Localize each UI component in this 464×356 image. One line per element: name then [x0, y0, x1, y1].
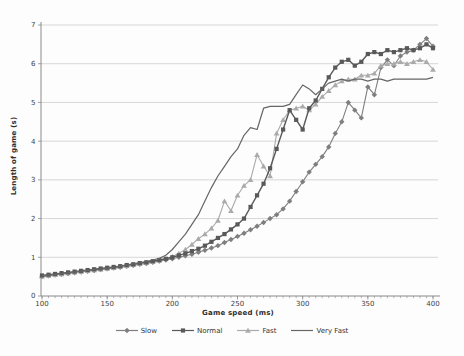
x-tick-label: 300 [296, 300, 309, 308]
series-normal [40, 42, 435, 277]
triangle-marker-glyph [237, 326, 259, 335]
square-marker-glyph [172, 326, 194, 335]
x-tick-label: 100 [35, 300, 48, 308]
x-tick-labels: 100150200250300350400 [35, 300, 439, 308]
axes [41, 22, 440, 296]
x-tick-label: 200 [166, 300, 179, 308]
legend-label: Very Fast [316, 327, 348, 335]
legend-item-normal: Normal [172, 326, 222, 335]
line-glyph [291, 326, 313, 335]
x-tick-label: 250 [231, 300, 244, 308]
diamond-marker-glyph [116, 326, 138, 335]
y-tick-label: 6 [31, 60, 36, 68]
y-tick-label: 1 [31, 254, 35, 262]
legend-item-slow: Slow [116, 326, 157, 335]
y-axis-title: Length of game (s) [10, 76, 18, 236]
y-tick-label: 2 [31, 215, 35, 223]
y-tick-label: 4 [31, 138, 36, 146]
legend-label: Normal [197, 327, 222, 335]
series-very-fast [42, 77, 433, 276]
y-tick-label: 3 [31, 176, 35, 184]
y-tick-labels: 01234567 [31, 21, 36, 300]
x-axis-title: Game speed (ms) [138, 309, 338, 317]
game-length-vs-speed-chart: 10015020025030035040001234567 Length of … [0, 0, 464, 356]
y-tick-label: 7 [31, 21, 35, 29]
legend-label: Slow [141, 327, 157, 335]
x-tick-label: 400 [426, 300, 439, 308]
x-tick-label: 350 [361, 300, 374, 308]
x-tick-label: 150 [100, 300, 113, 308]
tick-marks [38, 25, 433, 300]
chart-plot-area: 10015020025030035040001234567 [0, 0, 464, 356]
legend-label: Fast [262, 327, 276, 335]
y-tick-label: 0 [31, 292, 35, 300]
chart-legend: SlowNormalFastVery Fast [0, 326, 464, 335]
y-tick-label: 5 [31, 99, 35, 107]
series-fast [39, 57, 436, 278]
series-slow [39, 36, 435, 279]
legend-item-fast: Fast [237, 326, 276, 335]
legend-item-very-fast: Very Fast [291, 326, 348, 335]
